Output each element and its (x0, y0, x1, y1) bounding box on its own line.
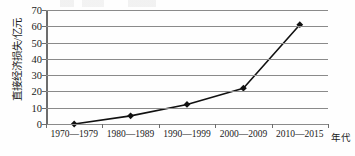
y-tick-label-10: 10 (32, 102, 43, 113)
chart-figure: 直接经济损失/亿元 010203040506070 1970—19791980—… (0, 0, 355, 156)
y-tick-mark-60 (42, 26, 46, 27)
x-tick-mark-1 (102, 124, 103, 128)
y-tick-label-20: 20 (32, 86, 43, 97)
x-tick-label-0: 1970—1979 (50, 129, 98, 139)
gridline-y-70 (46, 10, 328, 11)
x-tick-mark-2 (159, 124, 160, 128)
x-tick-label-2: 1990—1999 (163, 129, 211, 139)
plot-area: 010203040506070 (46, 10, 328, 124)
y-tick-label-60: 60 (32, 21, 43, 32)
y-tick-label-30: 30 (32, 70, 43, 81)
data-point-marker-1 (127, 112, 134, 119)
y-tick-label-40: 40 (32, 53, 43, 64)
y-tick-mark-50 (42, 43, 46, 44)
y-tick-mark-20 (42, 91, 46, 92)
gridline-y-50 (46, 43, 328, 44)
y-tick-label-70: 70 (32, 5, 43, 16)
gridline-y-30 (46, 75, 328, 76)
gridline-y-10 (46, 108, 328, 109)
y-tick-mark-40 (42, 59, 46, 60)
x-tick-label-1: 1980—1989 (107, 129, 155, 139)
y-tick-mark-10 (42, 108, 46, 109)
x-tick-mark-5 (328, 124, 329, 128)
x-tick-label-4: 2010—2015 (276, 129, 324, 139)
y-tick-mark-30 (42, 75, 46, 76)
x-tick-label-3: 2000—2009 (220, 129, 268, 139)
gridline-y-20 (46, 91, 328, 92)
y-tick-label-50: 50 (32, 37, 43, 48)
cropped-text-artifact (60, 0, 180, 7)
gridline-y-40 (46, 59, 328, 60)
x-axis-category-labels: 1970—19791980—19891990—19992000—20092010… (46, 129, 328, 147)
x-tick-mark-0 (46, 124, 47, 128)
y-tick-mark-70 (42, 10, 46, 11)
gridline-y-0 (46, 124, 328, 125)
x-tick-mark-3 (215, 124, 216, 128)
gridline-y-60 (46, 26, 328, 27)
y-axis-title: 直接经济损失/亿元 (9, 0, 24, 120)
x-tick-mark-4 (272, 124, 273, 128)
x-axis-title: 年代 (331, 130, 351, 144)
